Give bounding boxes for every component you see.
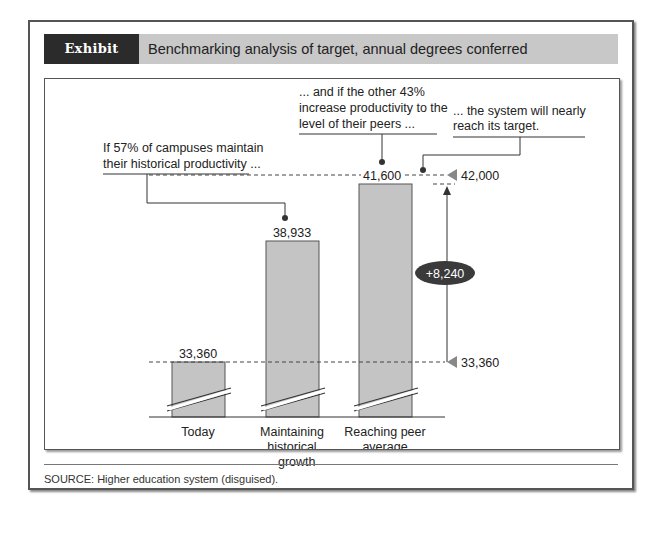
bar-reaching-peer [359,184,412,417]
bar-value-reaching-peer: 41,600 [363,169,401,183]
gap-badge-label: +8,240 [426,267,465,281]
svg-text:... the system will nearly: ... the system will nearly [453,104,586,118]
source-divider [44,464,618,465]
svg-text:reach its target.: reach its target. [453,119,539,133]
exhibit-title-bar: Exhibit 3B.13 Benchmarking analysis of t… [44,34,618,64]
leader-dot-middle [379,159,385,165]
source-note: SOURCE: Higher education system (disguis… [44,473,278,485]
category-label-reaching-2: average [362,440,407,449]
svg-text:level of their peers ...: level of their peers ... [299,117,415,131]
svg-text:... and if the other 43%: ... and if the other 43% [299,85,425,99]
annotation-middle: ... and if the other 43% increase produc… [299,85,448,131]
chart-title: Benchmarking analysis of target, annual … [148,34,528,64]
chart-area: If 57% of campuses maintain their histor… [44,78,620,450]
bar-maintaining: 38,933 [266,226,319,417]
baseline-marker-icon [447,356,457,368]
baseline-label: 33,360 [461,356,499,370]
svg-text:their historical productivity: their historical productivity ... [103,157,261,171]
svg-text:If 57% of campuses maintain: If 57% of campuses maintain [103,141,264,155]
target-marker-icon [447,169,457,181]
leader-dot-left [282,215,288,221]
bar-value-today: 33,360 [179,347,217,361]
category-label-maintaining-1: Maintaining [260,425,324,439]
exhibit-label: Exhibit 3B.13 [44,34,139,64]
leader-dot-right [420,167,426,173]
category-label-reaching-1: Reaching peer [344,425,425,439]
leader-line-right [423,137,520,167]
category-label-maintaining-2: historical [267,440,316,449]
leader-line-left [147,174,285,217]
exhibit-frame: Exhibit 3B.13 Benchmarking analysis of t… [28,20,634,490]
target-label: 42,000 [461,169,499,183]
annotation-left: If 57% of campuses maintain their histor… [103,141,264,171]
arrow-up-icon [443,186,451,195]
category-label-today: Today [181,425,215,439]
svg-text:increase productivity to the: increase productivity to the [299,101,448,115]
annotation-right: ... the system will nearly reach its tar… [453,104,586,133]
category-label-maintaining-3: growth [278,455,306,469]
chart-svg: If 57% of campuses maintain their histor… [45,79,619,449]
bar-value-maintaining: 38,933 [273,226,311,240]
